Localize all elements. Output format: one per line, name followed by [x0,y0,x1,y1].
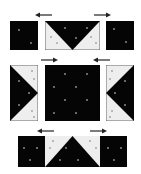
bottom-joined-strip [18,136,127,167]
arrow-left-icon [93,56,111,64]
top-flying-geese [45,21,100,50]
arrow-right-icon [93,11,111,19]
arrow-left-icon [35,11,53,19]
middle-center-dark-square [45,65,100,121]
arrow-right-icon [89,127,107,135]
arrow-right-icon [40,56,58,64]
arrow-left-icon [37,127,55,135]
top-left-dark-square [10,21,38,50]
top-right-dark-square [106,21,134,50]
middle-left-geese [10,65,38,121]
middle-right-geese [106,65,134,121]
